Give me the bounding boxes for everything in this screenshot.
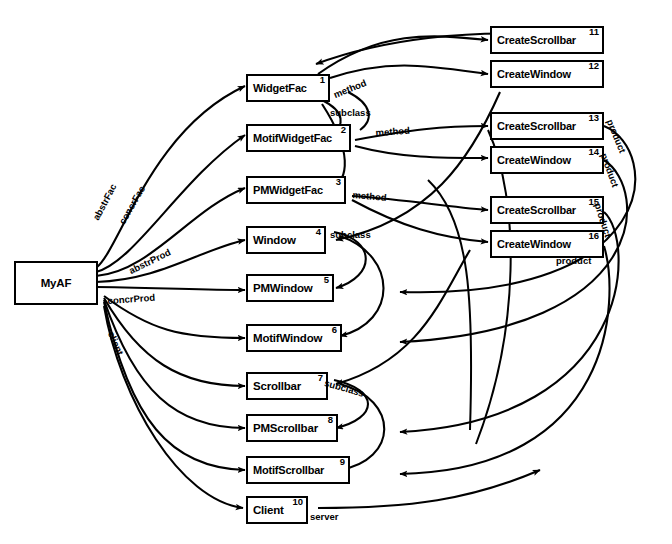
edge-label-product-4: product: [556, 256, 591, 266]
node-pmwidgetfac-index: 3: [336, 177, 341, 187]
node-createwindow-14-label: CreateWindow: [492, 154, 571, 166]
node-createscrollbar-13-index: 13: [588, 113, 599, 123]
edge-abstrFac: [96, 86, 245, 268]
node-createwindow-14[interactable]: CreateWindow 14: [490, 146, 604, 174]
node-createwindow-12-index: 12: [588, 61, 599, 71]
node-createscrollbar-15[interactable]: CreateScrollbar 15: [490, 196, 604, 224]
node-createscrollbar-13[interactable]: CreateScrollbar 13: [490, 112, 604, 140]
node-pmwindow-label: PMWindow: [248, 282, 313, 294]
node-pmwindow-index: 5: [324, 275, 329, 285]
node-motifwindow-label: MotifWindow: [248, 332, 322, 344]
node-motifwidgetfac-label: MotifWidgetFac: [248, 132, 332, 144]
node-scrollbar-label: Scrollbar: [248, 380, 301, 392]
node-window-label: Window: [248, 234, 296, 246]
node-scrollbar[interactable]: Scrollbar 7: [246, 372, 328, 400]
node-createscrollbar-11[interactable]: CreateScrollbar 11: [490, 26, 604, 54]
edge-product-16: [400, 246, 609, 474]
edge-label-server: server: [310, 512, 339, 522]
node-motifwidgetfac-index: 2: [341, 125, 346, 135]
node-createscrollbar-13-label: CreateScrollbar: [492, 120, 576, 132]
diagram-canvas: MyAF WidgetFac 1 MotifWidgetFac 2 PMWidg…: [0, 0, 672, 544]
node-motifscrollbar-label: MotifScrollbar: [248, 464, 324, 476]
node-motifscrollbar[interactable]: MotifScrollbar 9: [246, 456, 350, 484]
edge-server: [318, 470, 540, 508]
node-createwindow-16[interactable]: CreateWindow 16: [490, 230, 604, 258]
edge-product-abs-scrollbar: [336, 250, 470, 384]
node-myaf[interactable]: MyAF: [14, 261, 98, 305]
node-createscrollbar-15-label: CreateScrollbar: [492, 204, 576, 216]
node-widgetfac-index: 1: [320, 75, 325, 85]
node-widgetfac[interactable]: WidgetFac 1: [246, 74, 330, 102]
node-pmwidgetfac-label: PMWidgetFac: [248, 184, 323, 196]
node-createscrollbar-11-index: 11: [589, 27, 599, 37]
edge-label-subclass-1: subclass: [330, 108, 371, 118]
node-createscrollbar-11-label: CreateScrollbar: [492, 34, 576, 46]
node-pmscrollbar-index: 8: [328, 415, 333, 425]
node-client[interactable]: Client 10: [246, 496, 308, 524]
node-client-label: Client: [248, 504, 284, 516]
edge-subclass-win2: [340, 236, 384, 336]
edge-pmwf-createwindow16: [352, 200, 488, 242]
node-motifwindow[interactable]: MotifWindow 6: [246, 324, 342, 352]
edge-label-subclass-2: subclass: [330, 230, 371, 240]
node-widgetfac-label: WidgetFac: [248, 82, 307, 94]
node-createwindow-14-index: 14: [588, 147, 599, 157]
node-createwindow-16-label: CreateWindow: [492, 238, 571, 250]
node-window-index: 4: [316, 227, 321, 237]
node-myaf-label: MyAF: [16, 277, 96, 289]
node-createwindow-12-label: CreateWindow: [492, 68, 571, 80]
node-motifwidgetfac[interactable]: MotifWidgetFac 2: [246, 124, 351, 152]
node-pmwidgetfac[interactable]: PMWidgetFac 3: [246, 176, 346, 204]
node-motifscrollbar-index: 9: [340, 457, 345, 467]
node-createwindow-12[interactable]: CreateWindow 12: [490, 60, 604, 88]
node-motifwindow-index: 6: [332, 325, 337, 335]
edge-concrProd: [96, 287, 245, 290]
node-createwindow-16-index: 16: [588, 231, 599, 241]
node-window[interactable]: Window 4: [246, 226, 326, 254]
node-pmwindow[interactable]: PMWindow 5: [246, 274, 334, 302]
node-pmscrollbar-label: PMScrollbar: [248, 422, 318, 434]
node-scrollbar-index: 7: [318, 373, 323, 383]
node-pmscrollbar[interactable]: PMScrollbar 8: [246, 414, 338, 442]
edge-concrProd5: [104, 302, 245, 470]
edge-concrProd4: [104, 300, 245, 428]
node-client-index: 10: [292, 497, 303, 507]
edge-wf-createwindow12: [330, 65, 488, 78]
edge-client: [104, 306, 243, 508]
edge-curve-aux-2: [428, 180, 471, 430]
